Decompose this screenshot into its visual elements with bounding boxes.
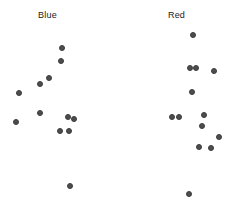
panel-red: Red	[117, 0, 234, 209]
data-point	[66, 128, 72, 134]
data-point	[216, 134, 222, 140]
data-point	[46, 75, 52, 81]
data-point	[37, 81, 43, 87]
data-point	[186, 191, 192, 197]
data-point	[211, 68, 217, 74]
data-point	[169, 114, 175, 120]
data-point	[58, 58, 64, 64]
plot-area-red	[117, 0, 234, 209]
data-point	[201, 112, 207, 118]
data-point	[16, 90, 22, 96]
data-point	[190, 32, 196, 38]
panel-blue: Blue	[0, 0, 117, 209]
data-point	[13, 119, 19, 125]
data-point	[37, 110, 43, 116]
data-point	[67, 183, 73, 189]
data-point	[176, 114, 182, 120]
data-point	[199, 123, 205, 129]
data-point	[189, 89, 195, 95]
scatter-plot-figure: Blue Red	[0, 0, 234, 209]
data-point	[57, 128, 63, 134]
data-point	[208, 145, 214, 151]
plot-area-blue	[0, 0, 117, 209]
data-point	[59, 45, 65, 51]
data-point	[71, 116, 77, 122]
data-point	[193, 65, 199, 71]
data-point	[196, 144, 202, 150]
